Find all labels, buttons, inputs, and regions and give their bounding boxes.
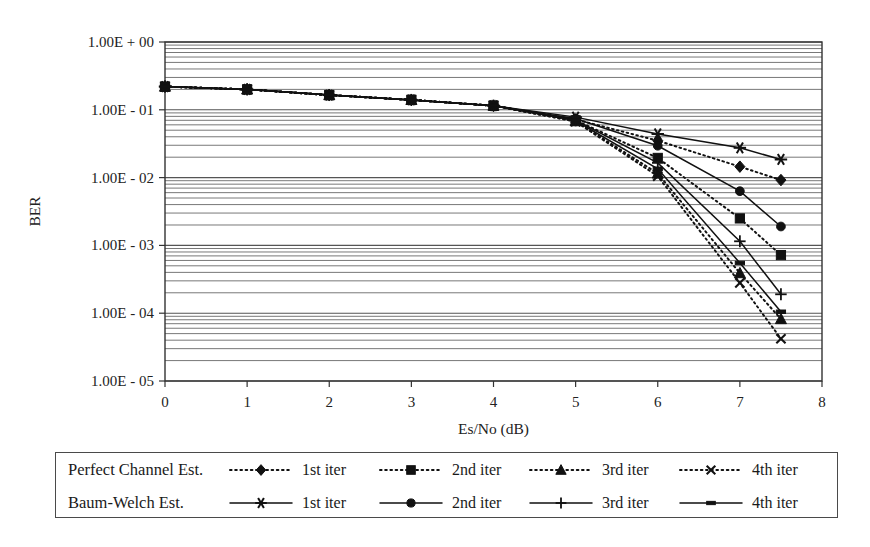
legend-swatch-dash-solid bbox=[676, 493, 748, 513]
legend-item-perfect-1st[interactable]: 1st iter bbox=[226, 460, 376, 480]
legend-item-perfect-4th[interactable]: 4th iter bbox=[676, 460, 826, 480]
data-marker-dash bbox=[407, 98, 416, 101]
data-marker-dash bbox=[489, 104, 498, 107]
data-marker-square bbox=[735, 214, 744, 223]
data-marker-dash bbox=[571, 119, 580, 122]
data-marker-plus bbox=[556, 497, 567, 508]
data-marker-asterisk bbox=[255, 497, 267, 507]
x-tick-label: 0 bbox=[161, 394, 169, 410]
x-tick-label: 6 bbox=[654, 394, 662, 410]
legend-label-perfect-4th: 4th iter bbox=[748, 461, 798, 479]
legend-swatch-diamond-dotted bbox=[226, 460, 298, 480]
x-tick-label: 1 bbox=[243, 394, 251, 410]
data-marker-dash bbox=[735, 261, 744, 264]
legend-item-perfect-3rd[interactable]: 3rd iter bbox=[526, 460, 676, 480]
legend-label-baum-2nd: 2nd iter bbox=[448, 494, 501, 512]
legend-group-title-baum-welch: Baum-Welch Est. bbox=[56, 493, 226, 513]
data-marker-circle bbox=[777, 222, 786, 231]
legend-label-perfect-3rd: 3rd iter bbox=[598, 461, 649, 479]
series-line bbox=[165, 87, 781, 227]
legend-swatch-circle-solid bbox=[376, 493, 448, 513]
y-tick-label: 1.00E - 01 bbox=[91, 102, 154, 118]
chart-legend: Perfect Channel Est. 1st iter 2nd iter 3… bbox=[55, 452, 838, 518]
legend-label-baum-1st: 1st iter bbox=[298, 494, 346, 512]
data-marker-square bbox=[776, 250, 785, 259]
data-marker-diamond bbox=[256, 464, 265, 475]
x-tick-label: 3 bbox=[408, 394, 416, 410]
data-marker-cross bbox=[735, 278, 744, 287]
x-axis-title: Es/No (dB) bbox=[458, 420, 529, 438]
data-series bbox=[160, 85, 785, 314]
legend-label-baum-4th: 4th iter bbox=[748, 494, 798, 512]
data-marker-dash bbox=[243, 88, 252, 91]
y-tick-label: 1.00E + 00 bbox=[88, 34, 154, 50]
legend-row-perfect-channel: Perfect Channel Est. 1st iter 2nd iter 3… bbox=[56, 453, 837, 486]
legend-item-baum-2nd[interactable]: 2nd iter bbox=[376, 493, 526, 513]
legend-swatch-triangle-dotted bbox=[526, 460, 598, 480]
series-line bbox=[165, 87, 781, 160]
data-marker-dash bbox=[776, 310, 785, 313]
y-tick-label: 1.00E - 04 bbox=[91, 305, 154, 321]
x-tick-label: 7 bbox=[736, 394, 744, 410]
legend-swatch-cross-dotted bbox=[676, 460, 748, 480]
data-marker-dash bbox=[325, 93, 334, 96]
data-series bbox=[159, 81, 786, 324]
legend-swatch-asterisk-solid bbox=[226, 493, 298, 513]
legend-label-baum-3rd: 3rd iter bbox=[598, 494, 649, 512]
plot-frame bbox=[165, 42, 822, 381]
chart-plot-area: 1.00E + 001.00E - 011.00E - 021.00E - 03… bbox=[0, 0, 870, 450]
x-tick-label: 2 bbox=[326, 394, 334, 410]
data-marker-diamond bbox=[735, 161, 745, 173]
x-tick-label: 8 bbox=[818, 394, 826, 410]
data-marker-asterisk bbox=[775, 154, 787, 165]
series-line bbox=[165, 87, 781, 295]
x-tick-label: 4 bbox=[490, 394, 498, 410]
data-marker-dash bbox=[160, 85, 169, 88]
data-marker-dash bbox=[707, 501, 716, 504]
legend-item-baum-3rd[interactable]: 3rd iter bbox=[526, 493, 676, 513]
data-marker-circle bbox=[653, 141, 662, 150]
data-series bbox=[160, 82, 785, 260]
data-marker-asterisk bbox=[734, 142, 746, 153]
series-line bbox=[165, 87, 781, 255]
data-series bbox=[159, 81, 786, 301]
legend-swatch-square-dotted bbox=[376, 460, 448, 480]
legend-item-perfect-2nd[interactable]: 2nd iter bbox=[376, 460, 526, 480]
legend-label-perfect-2nd: 2nd iter bbox=[448, 461, 501, 479]
legend-label-perfect-1st: 1st iter bbox=[298, 461, 346, 479]
y-axis-title: BER bbox=[26, 196, 43, 227]
data-series bbox=[160, 81, 786, 186]
legend-swatch-plus-solid bbox=[526, 493, 598, 513]
series-line bbox=[165, 87, 781, 319]
data-marker-circle bbox=[736, 187, 745, 196]
legend-group-title-perfect-channel: Perfect Channel Est. bbox=[56, 460, 226, 480]
y-tick-label: 1.00E - 02 bbox=[91, 170, 154, 186]
y-tick-label: 1.00E - 05 bbox=[91, 373, 154, 389]
legend-item-baum-4th[interactable]: 4th iter bbox=[676, 493, 826, 513]
legend-item-baum-1st[interactable]: 1st iter bbox=[226, 493, 376, 513]
data-marker-square bbox=[407, 465, 416, 474]
x-tick-label: 5 bbox=[572, 394, 580, 410]
y-tick-label: 1.00E - 03 bbox=[91, 237, 154, 253]
data-marker-circle bbox=[407, 498, 415, 506]
data-marker-cross bbox=[776, 334, 785, 343]
data-marker-dash bbox=[653, 167, 662, 170]
series-line bbox=[165, 87, 781, 180]
legend-row-baum-welch: Baum-Welch Est. 1st iter 2nd iter 3rd it… bbox=[56, 486, 837, 519]
